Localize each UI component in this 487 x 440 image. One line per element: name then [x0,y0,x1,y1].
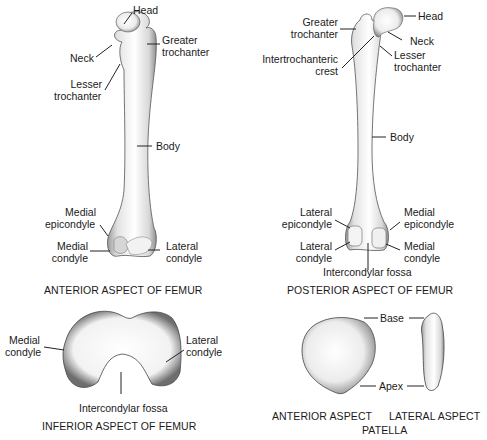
label-lateral-condyle-inferior-2: condyle [186,346,222,358]
label-greater-trochanter-posterior-2: trochanter [290,28,338,40]
femur-patella-figure: Head Neck Greater trochanter Lesser troc… [0,0,487,440]
label-base: Base [380,312,404,324]
label-apex: Apex [379,380,403,392]
label-medial-condyle-anterior-1: Medial [40,240,88,252]
label-head-anterior: Head [133,4,158,16]
caption-patella-anterior: ANTERIOR ASPECT [272,410,372,422]
patella-anterior-bone [302,318,375,394]
label-medial-condyle-inferior-1: Medial [9,334,40,346]
label-medial-epicondyle-posterior-1: Medial [404,206,435,218]
label-intertrochanteric-1: Intertrochanteric [262,53,338,65]
caption-patella: PATELLA [362,424,407,436]
label-medial-condyle-inferior-2: condyle [5,346,41,358]
caption-anterior-femur: ANTERIOR ASPECT OF FEMUR [44,284,203,296]
label-neck-anterior: Neck [70,52,94,64]
label-greater-trochanter-posterior-1: Greater [290,16,338,28]
label-intercondylar-fossa-inferior: Intercondylar fossa [79,402,168,414]
label-lateral-epicondyle-2: epicondyle [270,218,332,230]
label-medial-epicondyle-posterior-2: epicondyle [404,218,454,230]
label-head-posterior: Head [418,10,443,22]
label-lesser-trochanter-anterior-1: Lesser [60,78,102,90]
caption-patella-lateral: LATERAL ASPECT [389,410,480,422]
label-intercondylar-fossa-posterior: Intercondylar fossa [323,266,412,278]
label-lateral-epicondyle-1: Lateral [270,206,332,218]
label-medial-condyle-anterior-2: condyle [40,252,88,264]
caption-inferior-femur: INFERIOR ASPECT OF FEMUR [42,420,196,432]
label-lateral-condyle-inferior-1: Lateral [186,334,218,346]
label-lateral-condyle-posterior-1: Lateral [280,240,332,252]
anterior-femur-bone [107,12,156,257]
patella-lateral-bone [421,313,444,390]
label-lesser-trochanter-anterior-2: trochanter [54,90,101,102]
label-neck-posterior: Neck [410,35,434,47]
label-lesser-trochanter-posterior-1: Lesser [394,49,426,61]
label-medial-condyle-posterior-2: condyle [404,252,440,264]
caption-posterior-femur: POSTERIOR ASPECT OF FEMUR [287,284,453,296]
label-body-anterior: Body [156,140,180,152]
label-greater-trochanter-anterior-1: Greater [162,34,198,46]
label-body-posterior: Body [390,131,414,143]
label-medial-condyle-posterior-1: Medial [404,240,435,252]
inferior-femur-bone [63,311,181,387]
label-lateral-condyle-anterior-2: condyle [166,252,202,264]
label-lateral-condyle-anterior-1: Lateral [166,240,198,252]
posterior-femur-bone [346,8,403,251]
label-intertrochanteric-2: crest [262,65,338,77]
label-medial-epicondyle-anterior-2: epicondyle [45,218,95,230]
label-medial-epicondyle-anterior-1: Medial [40,206,96,218]
label-lesser-trochanter-posterior-2: trochanter [394,61,441,73]
label-greater-trochanter-anterior-2: trochanter [162,46,209,58]
label-lateral-condyle-posterior-2: condyle [280,252,332,264]
